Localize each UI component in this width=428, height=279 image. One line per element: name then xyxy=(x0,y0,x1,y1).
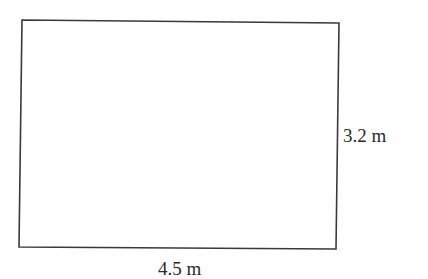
height-label: 3.2 m xyxy=(343,125,387,146)
width-label: 4.5 m xyxy=(158,258,202,279)
rectangle-shape xyxy=(19,20,339,249)
rectangle-diagram: 3.2 m 4.5 m xyxy=(0,0,428,279)
